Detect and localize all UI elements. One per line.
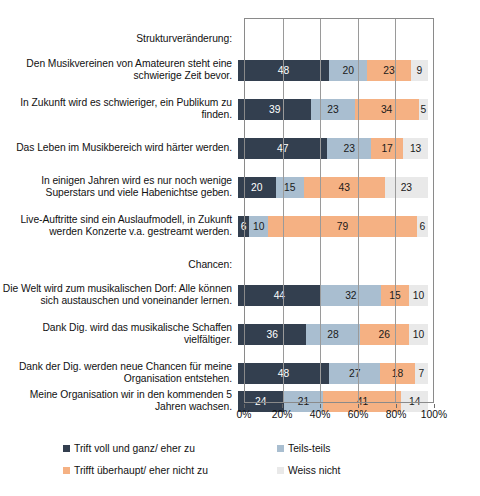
bar-container: 47231713 — [238, 131, 428, 165]
x-tick-mark — [358, 404, 359, 408]
bar-segment-series-1[interactable]: 15 — [276, 177, 304, 198]
bar-value-label: 18 — [392, 368, 403, 379]
legend-label: Trifft überhaupt/ eher nicht zu — [74, 465, 208, 476]
bar-segment-series-1[interactable]: 28 — [306, 324, 359, 345]
stacked-bar-chart: Strukturveränderung:Den Musikvereinen vo… — [0, 0, 480, 496]
x-tick-mark — [320, 404, 321, 408]
bar-segment-series-2[interactable]: 26 — [360, 324, 409, 345]
stacked-bar[interactable]: 44321510 — [238, 285, 428, 306]
stacked-bar[interactable]: 4820239 — [238, 60, 428, 81]
stacked-bar[interactable]: 3923345 — [238, 99, 428, 120]
bar-value-label: 13 — [410, 143, 421, 154]
bar-container — [238, 248, 428, 282]
category-label: Den Musikvereinen von Amateuren steht ei… — [0, 58, 238, 82]
bar-value-label: 15 — [284, 182, 295, 193]
bar-container — [238, 22, 428, 56]
bar-segment-series-2[interactable]: 79 — [268, 216, 417, 237]
bar-container: 44321510 — [238, 278, 428, 312]
stacked-bar[interactable]: 4827187 — [238, 363, 428, 384]
bar-segment-series-0[interactable]: 47 — [238, 138, 327, 159]
bar-segment-series-2[interactable]: 18 — [380, 363, 414, 384]
x-tick-mark — [244, 404, 245, 408]
bar-segment-series-1[interactable]: 20 — [329, 60, 367, 81]
legend-item-0[interactable]: Trift voll und ganz/ eher zu — [63, 443, 195, 454]
bar-segment-series-3[interactable]: 6 — [417, 216, 428, 237]
bar-value-label: 23 — [401, 182, 412, 193]
chart-rows-area: Strukturveränderung:Den Musikvereinen vo… — [0, 18, 480, 403]
bar-segment-series-3[interactable]: 13 — [403, 138, 428, 159]
bar-segment-series-2[interactable]: 15 — [381, 285, 409, 306]
bar-segment-series-2[interactable]: 43 — [304, 177, 385, 198]
bar-value-label: 28 — [327, 329, 338, 340]
bar-value-label: 6 — [419, 221, 425, 232]
legend-label: Trift voll und ganz/ eher zu — [74, 443, 195, 454]
bar-value-label: 23 — [383, 65, 394, 76]
legend-swatch-icon — [63, 467, 70, 474]
bar-segment-series-0[interactable]: 6 — [238, 216, 249, 237]
category-label: In einigen Jahren wird es nur noch wenig… — [0, 175, 238, 199]
chart-group-header-row: Strukturveränderung: — [0, 22, 480, 56]
x-axis: 0%20%40%60%80%100% — [244, 404, 434, 422]
stacked-bar[interactable]: 47231713 — [238, 138, 428, 159]
bar-segment-series-3[interactable]: 10 — [409, 285, 428, 306]
bar-segment-series-2[interactable]: 23 — [367, 60, 411, 81]
legend-swatch-icon — [277, 467, 284, 474]
stacked-bar[interactable]: 610796 — [238, 216, 428, 237]
bar-segment-series-0[interactable]: 44 — [238, 285, 321, 306]
x-tick-label: 60% — [348, 409, 369, 420]
bar-value-label: 10 — [253, 221, 264, 232]
chart-bar-row: In Zukunft wird es schwieriger, ein Publ… — [0, 92, 480, 126]
bar-value-label: 26 — [379, 329, 390, 340]
bar-segment-series-1[interactable]: 10 — [249, 216, 268, 237]
bar-segment-series-3[interactable]: 5 — [419, 99, 428, 120]
legend-item-1[interactable]: Teils-teils — [277, 443, 330, 454]
bar-segment-series-0[interactable]: 36 — [238, 324, 306, 345]
chart-bar-row: Das Leben im Musikbereich wird härter we… — [0, 131, 480, 165]
bar-value-label: 34 — [381, 104, 392, 115]
group-header-label: Chancen: — [0, 259, 238, 271]
bar-value-label: 44 — [274, 290, 285, 301]
bar-value-label: 20 — [251, 182, 262, 193]
bar-value-label: 17 — [381, 143, 392, 154]
bar-segment-series-1[interactable]: 23 — [311, 99, 354, 120]
stacked-bar[interactable]: 36282610 — [238, 324, 428, 345]
bar-segment-series-2[interactable]: 17 — [371, 138, 403, 159]
bar-segment-series-0[interactable]: 39 — [238, 99, 311, 120]
legend-label: Weiss nicht — [288, 465, 340, 476]
bar-segment-series-3[interactable]: 10 — [409, 324, 428, 345]
legend-item-3[interactable]: Weiss nicht — [277, 465, 340, 476]
legend-item-2[interactable]: Trifft überhaupt/ eher nicht zu — [63, 465, 208, 476]
category-label: Das Leben im Musikbereich wird härter we… — [0, 142, 238, 154]
category-label: Die Welt wird zum musikalischen Dorf: Al… — [0, 283, 238, 307]
x-tick-mark — [434, 404, 435, 408]
x-tick-label: 80% — [386, 409, 407, 420]
x-tick-label: 20% — [272, 409, 293, 420]
bar-value-label: 7 — [418, 368, 424, 379]
chart-bar-row: In einigen Jahren wird es nur noch wenig… — [0, 170, 480, 204]
stacked-bar[interactable]: 20154323 — [238, 177, 428, 198]
legend-label: Teils-teils — [288, 443, 330, 454]
bar-segment-series-1[interactable]: 27 — [329, 363, 380, 384]
bar-segment-series-0[interactable]: 20 — [238, 177, 276, 198]
bar-segment-series-1[interactable]: 23 — [327, 138, 371, 159]
bar-segment-series-1[interactable]: 32 — [321, 285, 381, 306]
bar-segment-series-2[interactable]: 34 — [355, 99, 419, 120]
legend-swatch-icon — [277, 445, 284, 452]
bar-value-label: 23 — [327, 104, 338, 115]
bar-value-label: 32 — [345, 290, 356, 301]
x-tick-mark — [396, 404, 397, 408]
bar-container: 4820239 — [238, 53, 428, 87]
bar-segment-series-0[interactable]: 48 — [238, 363, 329, 384]
bar-segment-series-3[interactable]: 7 — [415, 363, 428, 384]
bar-value-label: 79 — [337, 221, 348, 232]
chart-legend: Trift voll und ganz/ eher zuTeils-teilsT… — [0, 440, 480, 490]
bar-value-label: 36 — [266, 329, 277, 340]
category-label: Dank der Dig. werden neue Chancen für me… — [0, 361, 238, 385]
bar-value-label: 43 — [339, 182, 350, 193]
chart-bar-row: Live-Auftritte sind ein Auslaufmodell, i… — [0, 209, 480, 243]
bar-value-label: 39 — [269, 104, 280, 115]
bar-segment-series-3[interactable]: 23 — [385, 177, 428, 198]
bar-segment-series-3[interactable]: 9 — [411, 60, 428, 81]
bar-segment-series-0[interactable]: 48 — [238, 60, 329, 81]
category-label: Live-Auftritte sind ein Auslaufmodell, i… — [0, 214, 238, 238]
